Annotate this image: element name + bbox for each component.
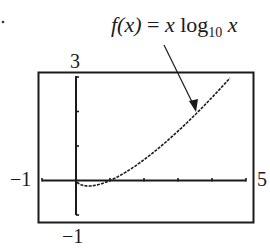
function-curve (77, 78, 230, 186)
viewing-window-frame (39, 73, 254, 223)
xmax-label: 5 (257, 169, 267, 189)
label-fx: f(x) (111, 12, 142, 37)
ymin-label: −1 (62, 226, 83, 246)
label-eq: = (142, 12, 165, 37)
ymax-label: 3 (70, 51, 80, 71)
axes (42, 76, 246, 215)
label-x2: x (222, 12, 237, 37)
label-log: log (175, 12, 209, 37)
label-base: 10 (208, 25, 222, 40)
function-label: f(x) = x log10 x (111, 14, 238, 40)
xmin-label: −1 (10, 169, 31, 189)
annotation-arrow (164, 45, 198, 112)
stray-dot (2, 21, 5, 24)
label-x1: x (165, 12, 175, 37)
arrow-head-icon (189, 99, 198, 112)
